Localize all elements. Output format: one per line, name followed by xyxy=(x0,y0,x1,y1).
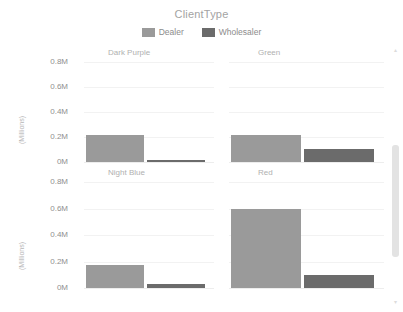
chart-legend: Dealer Wholesaler xyxy=(0,27,403,37)
bar-dealer[interactable] xyxy=(231,209,301,288)
y-tick-label: 0.6M xyxy=(24,204,68,213)
legend-item-wholesaler[interactable]: Wholesaler xyxy=(202,27,262,37)
bar-dealer[interactable] xyxy=(231,135,301,162)
panel-title: Dark Purple xyxy=(108,48,150,57)
bar-wholesaler[interactable] xyxy=(304,149,374,162)
gridline xyxy=(84,209,214,210)
y-tick-label: 0M xyxy=(24,157,68,166)
y-tick-label: 0.8M xyxy=(24,177,68,186)
panel-title: Green xyxy=(258,48,280,57)
y-tick-label: 0.4M xyxy=(24,107,68,116)
y-tick-label: 0.6M xyxy=(24,82,68,91)
gridline xyxy=(84,112,214,113)
scrollbar-thumb[interactable] xyxy=(392,145,399,257)
legend-swatch-dealer xyxy=(142,28,155,37)
legend-swatch-wholesaler xyxy=(202,28,215,37)
axis-baseline xyxy=(229,162,384,163)
gridline xyxy=(229,87,384,88)
legend-item-dealer[interactable]: Dealer xyxy=(142,27,184,37)
gridline xyxy=(84,182,214,183)
y-tick-label: 0.2M xyxy=(24,257,68,266)
axis-baseline xyxy=(84,162,214,163)
gridline xyxy=(84,262,214,263)
legend-label-dealer: Dealer xyxy=(159,27,184,37)
gridline xyxy=(84,235,214,236)
chart-title: ClientType xyxy=(0,8,403,20)
y-tick-label: 0.2M xyxy=(24,132,68,141)
axis-baseline xyxy=(229,288,384,289)
bar-wholesaler[interactable] xyxy=(304,275,374,288)
gridline xyxy=(229,182,384,183)
gridline xyxy=(84,87,214,88)
gridline xyxy=(229,62,384,63)
gridline xyxy=(84,62,214,63)
legend-label-wholesaler: Wholesaler xyxy=(219,27,262,37)
gridline xyxy=(229,112,384,113)
bar-dealer[interactable] xyxy=(86,265,144,288)
bar-wholesaler[interactable] xyxy=(147,160,205,162)
y-tick-label: 0M xyxy=(24,283,68,292)
y-tick-label: 0.8M xyxy=(24,57,68,66)
y-axis-label: (Millions) xyxy=(18,116,25,144)
bar-wholesaler[interactable] xyxy=(147,284,205,288)
panel-title: Night Blue xyxy=(108,168,145,177)
y-tick-label: 0.4M xyxy=(24,230,68,239)
panel-title: Red xyxy=(258,168,273,177)
chart-container: ClientType Dealer Wholesaler Dark Purple… xyxy=(0,0,403,312)
scrollbar-down-arrow[interactable]: ▾ xyxy=(393,300,398,305)
y-axis-label: (Millions) xyxy=(18,242,25,270)
bar-dealer[interactable] xyxy=(86,135,144,162)
axis-baseline xyxy=(84,288,214,289)
